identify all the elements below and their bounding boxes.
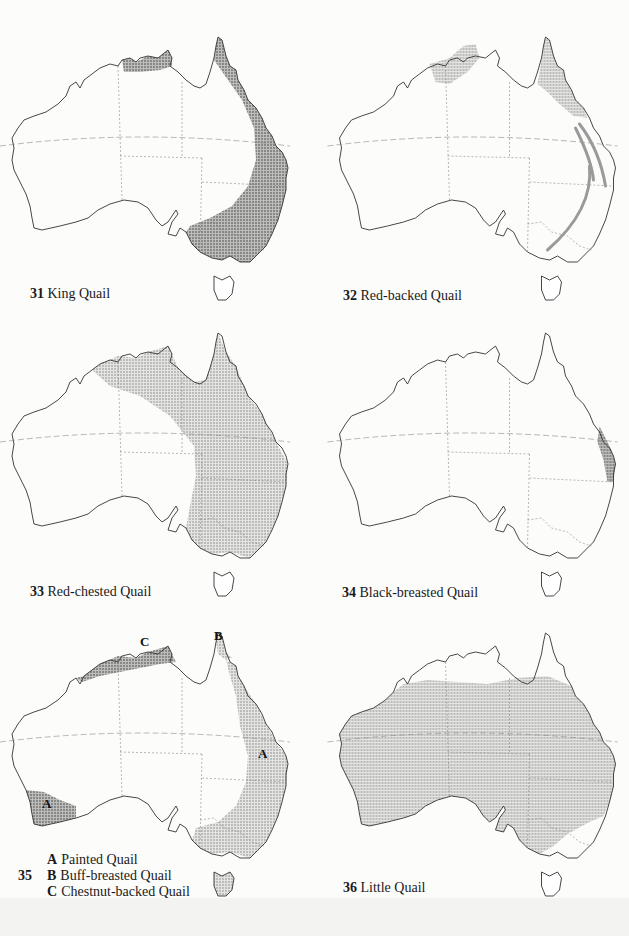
caption-33-name: Red-chested Quail [48, 584, 152, 599]
caption-35-legend: APainted Quail 35BBuff-breasted Quail CC… [30, 852, 190, 900]
caption-32-number: 32 [343, 288, 357, 303]
caption-31-name: King Quail [48, 286, 111, 301]
map-34-black-breasted-quail [310, 296, 629, 606]
caption-35-number: 35 [18, 868, 47, 884]
caption-34-number: 34 [342, 585, 356, 600]
legend-row-a: APainted Quail [30, 852, 190, 868]
caption-36-name: Little Quail [361, 880, 426, 895]
caption-32: 32 Red-backed Quail [343, 288, 462, 304]
map-31-king-quail [0, 0, 300, 310]
map-label-a-west: A [42, 796, 52, 811]
map-33-red-chested-quail [0, 296, 300, 606]
caption-33: 33 Red-chested Quail [30, 584, 151, 600]
caption-36: 36 Little Quail [343, 880, 425, 896]
map-label-b: B [214, 628, 223, 643]
caption-31-number: 31 [30, 286, 44, 301]
caption-33-number: 33 [30, 584, 44, 599]
caption-32-name: Red-backed Quail [361, 288, 462, 303]
caption-36-number: 36 [343, 880, 357, 895]
caption-34-name: Black-breasted Quail [360, 585, 479, 600]
caption-31: 31 King Quail [30, 286, 110, 302]
map-32-red-backed-quail [310, 0, 629, 310]
caption-34: 34 Black-breasted Quail [342, 585, 478, 601]
map-36-little-quail [310, 596, 629, 906]
map-label-c: C [140, 634, 149, 649]
page-bottom-margin [0, 898, 629, 936]
legend-row-b: 35BBuff-breasted Quail [30, 868, 190, 884]
map-label-a-east: A [258, 746, 268, 761]
migration-arrows [548, 124, 606, 250]
